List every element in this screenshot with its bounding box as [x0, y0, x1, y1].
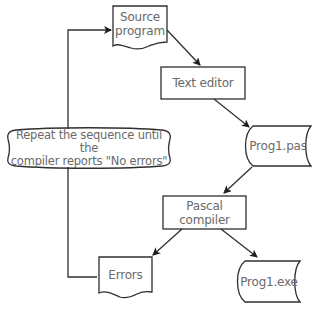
pascal-compiler-label: Pascal compiler — [163, 196, 246, 229]
feedback-line-lower — [68, 167, 97, 277]
arrow-pas-to-compiler — [224, 167, 252, 193]
pascal-compiler-line1: Pascal — [186, 199, 222, 213]
text-editor-label: Text editor — [161, 67, 245, 99]
source-program-line1: Source — [120, 10, 160, 24]
arrow-compiler-to-errors — [153, 229, 182, 255]
feedback-line-upper — [68, 30, 111, 129]
pascal-compiler-line2: compiler — [179, 213, 230, 227]
arrow-editor-to-pas — [214, 99, 249, 127]
repeat-annotation-line1: Repeat the sequence until the — [8, 129, 170, 155]
flowchart-canvas: Source program Text editor Prog1.pas Pas… — [0, 0, 316, 311]
prog1-exe-label: Prog1.exe — [239, 261, 299, 302]
repeat-annotation-line2: compiler reports "No errors" — [11, 155, 168, 168]
repeat-annotation-label: Repeat the sequence until the compiler r… — [8, 130, 170, 166]
source-program-label: Source program — [113, 8, 167, 40]
source-program-line2: program — [115, 24, 165, 38]
errors-label: Errors — [99, 262, 152, 288]
arrow-compiler-to-exe — [221, 229, 257, 257]
prog1-pas-label: Prog1.pas — [247, 126, 309, 166]
arrow-source-to-editor — [167, 30, 200, 65]
